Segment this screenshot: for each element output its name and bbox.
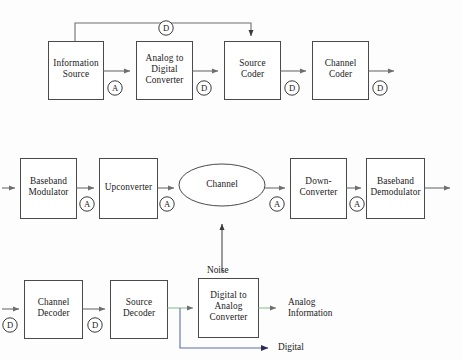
block-diagram: Information Source Analog to Digital Con…: [0, 0, 463, 360]
block-channel-coder: [313, 42, 369, 100]
tag-text-baseband-mod-out-a: A: [79, 200, 95, 209]
block-information-source: [49, 42, 104, 100]
label-digital: Digital: [278, 342, 304, 353]
tag-text-channel-coder-out-d: D: [372, 84, 388, 93]
tag-text-channel-decoder-in-d: D: [2, 321, 18, 330]
block-baseband-demodulator: [367, 159, 425, 219]
block-channel: [179, 164, 265, 206]
block-source-coder: [225, 42, 281, 100]
label-analog-information-line1: Analog: [288, 297, 332, 308]
block-upconverter: [100, 159, 158, 219]
tag-text-info-source-out-a: A: [107, 84, 123, 93]
tag-text-downconverter-out-a: A: [349, 200, 365, 209]
block-baseband-modulator: [21, 159, 77, 219]
tag-text-source-coder-out-d: D: [284, 84, 300, 93]
block-down-converter: [291, 159, 347, 219]
tag-text-adc-out-d: D: [196, 84, 212, 93]
tag-text-upconverter-out-a: A: [159, 200, 175, 209]
label-noise: Noise: [207, 265, 229, 276]
tag-text-channel-decoder-out-d: D: [87, 321, 103, 330]
tag-text-channel-out-a: A: [269, 200, 285, 209]
block-source-decoder: [111, 281, 168, 339]
tag-text-feedback-d: D: [158, 24, 174, 33]
block-channel-decoder: [25, 281, 83, 339]
block-analog-to-digital-converter: [137, 42, 193, 100]
diagram-canvas: [0, 0, 463, 360]
block-digital-to-analog-converter: [199, 279, 259, 338]
label-analog-information: Analog Information: [288, 297, 332, 319]
label-analog-information-line2: Information: [288, 308, 332, 319]
